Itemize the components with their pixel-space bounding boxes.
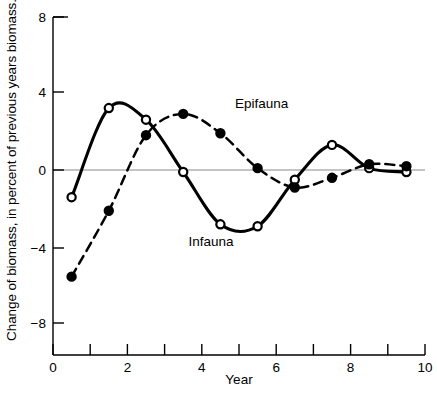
data-point xyxy=(254,164,262,172)
data-point xyxy=(179,110,187,118)
series-markers-epifauna xyxy=(68,110,411,281)
series-label-infauna: Infauna xyxy=(188,234,234,249)
data-series-layer xyxy=(68,103,411,281)
y-tick-label-8: 8 xyxy=(38,10,46,25)
data-point xyxy=(105,207,113,215)
data-point xyxy=(365,160,373,168)
x-axis: 0 2 4 6 8 10 xyxy=(49,344,432,375)
data-point xyxy=(68,193,76,201)
x-tick-label-10: 10 xyxy=(417,360,432,375)
series-epifauna xyxy=(72,114,407,277)
data-point xyxy=(216,129,224,137)
data-point xyxy=(254,222,262,230)
x-tick-label-6: 6 xyxy=(272,360,280,375)
x-tick-label-4: 4 xyxy=(198,360,206,375)
y-tick-label-0: 0 xyxy=(38,163,46,178)
series-line-epifauna xyxy=(72,114,407,277)
data-point xyxy=(216,220,224,228)
data-point xyxy=(328,174,336,182)
y-tick-label-minus-4: −4 xyxy=(31,241,47,256)
data-point xyxy=(328,141,336,149)
data-point xyxy=(179,168,187,176)
series-label-epifauna: Epifauna xyxy=(235,96,289,111)
figure-caption xyxy=(0,396,437,405)
data-point xyxy=(105,104,113,112)
y-tick-label-4: 4 xyxy=(38,85,46,100)
chart-plot-area: 8 4 0 −4 −8 0 2 4 6 8 10 xyxy=(0,0,437,405)
data-point xyxy=(68,273,76,281)
y-axis: 8 4 0 −4 −8 xyxy=(31,10,68,355)
x-tick-label-0: 0 xyxy=(49,360,57,375)
figure-container: Change of biomass, in percent of previou… xyxy=(0,0,437,405)
x-tick-label-2: 2 xyxy=(124,360,132,375)
data-point xyxy=(291,183,299,191)
data-point xyxy=(142,116,150,124)
data-point xyxy=(142,131,150,139)
data-point xyxy=(402,162,410,170)
x-tick-label-8: 8 xyxy=(347,360,355,375)
y-tick-label-minus-8: −8 xyxy=(31,316,46,331)
